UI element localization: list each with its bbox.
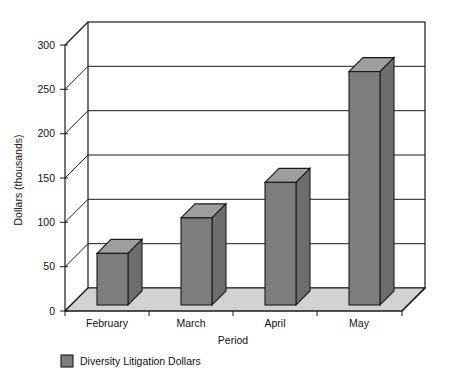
y-axis-ticks	[60, 45, 68, 311]
y-axis-title: Dollars (thousands)	[12, 134, 24, 225]
bar-march[interactable]	[181, 204, 226, 305]
y-tick-label-100: 100	[37, 216, 55, 228]
bar-may[interactable]	[349, 58, 394, 305]
bar-april-side	[296, 168, 310, 305]
gridline-connector-150	[65, 155, 88, 178]
x-label-may: May	[349, 317, 370, 329]
bar-may-side	[380, 58, 394, 305]
legend: Diversity Litigation Dollars	[61, 355, 201, 367]
chart-container: 0 50 100 150 200 250 300	[0, 0, 461, 377]
x-axis-ticks	[65, 311, 402, 316]
bar-march-front	[181, 218, 212, 305]
gridline-connector-100	[65, 199, 88, 222]
y-tick-label-0: 0	[49, 305, 55, 317]
x-axis-category-labels: February March April May	[86, 317, 370, 329]
bar-february[interactable]	[97, 239, 142, 305]
bar-chart-3d: 0 50 100 150 200 250 300	[0, 0, 461, 377]
y-tick-label-300: 300	[37, 39, 55, 51]
bar-april-front	[265, 182, 296, 305]
bar-february-front	[97, 253, 128, 305]
y-tick-label-50: 50	[43, 260, 55, 272]
y-tick-label-150: 150	[37, 172, 55, 184]
y-tick-label-250: 250	[37, 83, 55, 95]
legend-swatch-diversity-litigation-dollars	[61, 355, 73, 367]
x-label-february: February	[86, 317, 129, 329]
y-tick-label-200: 200	[37, 127, 55, 139]
y-axis-tick-labels: 0 50 100 150 200 250 300	[37, 39, 55, 317]
gridline-connector-250	[65, 66, 88, 89]
legend-label-diversity-litigation-dollars: Diversity Litigation Dollars	[80, 355, 201, 367]
x-axis-title: Period	[218, 334, 249, 346]
bar-march-side	[212, 204, 226, 305]
x-label-march: March	[176, 317, 205, 329]
bar-april[interactable]	[265, 168, 310, 305]
gridline-connector-200	[65, 111, 88, 134]
x-label-april: April	[264, 317, 285, 329]
gridline-connector-50	[65, 244, 88, 267]
bar-may-front	[349, 72, 380, 305]
gridline-connector-300	[65, 22, 88, 45]
